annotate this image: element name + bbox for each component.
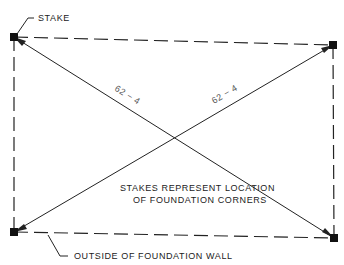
outline-top bbox=[14, 37, 333, 45]
stake-leader bbox=[17, 18, 34, 34]
stake-top-right bbox=[329, 41, 337, 49]
outline-bottom bbox=[14, 232, 334, 238]
outline-right bbox=[333, 45, 334, 238]
foundation-diagram: STAKE OUTSIDE OF FOUNDATION WALL 62 − 4 … bbox=[0, 0, 344, 265]
stake-bottom-right bbox=[330, 234, 338, 242]
stake-bottom-left bbox=[10, 228, 18, 236]
note-line-1: STAKES REPRESENT LOCATION bbox=[120, 183, 275, 193]
note-line-2: OF FOUNDATION CORNERS bbox=[133, 195, 267, 205]
stake-top-left bbox=[10, 33, 18, 41]
diagonals bbox=[14, 37, 334, 238]
diagonal-a bbox=[14, 37, 334, 238]
stake-label: STAKE bbox=[38, 13, 70, 23]
diagonal-a-dimension: 62 − 4 bbox=[113, 83, 142, 106]
wall-leader bbox=[48, 235, 68, 256]
wall-label: OUTSIDE OF FOUNDATION WALL bbox=[74, 251, 233, 261]
